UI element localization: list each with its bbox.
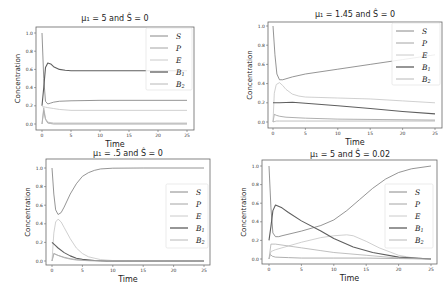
series-p-line <box>42 110 187 124</box>
y-tick-label: 0.6 <box>36 203 43 208</box>
x-tick-label: 25 <box>184 133 190 138</box>
x-tick-label: 10 <box>110 268 116 273</box>
legend-label: E <box>195 212 202 221</box>
x-tick-label: 20 <box>396 267 402 272</box>
subplot-title: μ₁ = 5 and Ŝ = 0.02 <box>310 148 390 159</box>
y-tick-label: 0.8 <box>26 49 33 54</box>
subplot-title: μ₁ = .5 and Ŝ = 0 <box>93 147 163 158</box>
y-tick-label: 1.0 <box>26 31 33 36</box>
subplot-2: μ₁ = 1.45 and Ŝ = 005101520250.00.20.40.… <box>246 8 442 147</box>
legend: SPEB1B2 <box>166 184 208 248</box>
y-tick-label: 0.4 <box>36 221 43 226</box>
series-b2-line <box>273 121 435 122</box>
x-tick-label: 10 <box>97 133 103 138</box>
y-tick-label: 0.0 <box>252 257 259 262</box>
x-axis-label: Time <box>344 138 365 147</box>
y-tick-label: 0.2 <box>252 238 259 243</box>
y-tick-label: 0.2 <box>258 100 265 105</box>
y-tick-label: 0.8 <box>252 182 259 187</box>
y-tick-label: 0.0 <box>26 122 33 127</box>
x-tick-label: 0 <box>272 131 275 136</box>
legend-label: P <box>175 44 182 53</box>
x-tick-label: 20 <box>400 131 406 136</box>
subplot-4: μ₁ = 5 and Ŝ = 0.0205101520250.00.20.40.… <box>240 148 437 283</box>
y-axis-label: Concentration <box>246 50 254 100</box>
x-axis-label: Time <box>104 140 125 149</box>
y-tick-label: 0.4 <box>252 219 259 224</box>
y-tick-label: 1.0 <box>36 166 43 171</box>
legend-label: P <box>414 200 421 209</box>
y-axis-label: Concentration <box>14 54 22 104</box>
x-tick-label: 20 <box>171 268 177 273</box>
x-tick-label: 25 <box>432 131 438 136</box>
y-tick-label: 0.6 <box>26 67 33 72</box>
y-tick-label: 1.0 <box>252 164 259 169</box>
legend-label: E <box>175 56 182 65</box>
y-axis-label: Concentration <box>24 187 32 237</box>
x-tick-label: 5 <box>81 268 84 273</box>
x-tick-label: 0 <box>41 133 44 138</box>
legend-label: P <box>421 39 428 48</box>
series-e-line <box>42 107 187 111</box>
legend: SPEB1B2 <box>392 23 440 85</box>
subplot-title: μ₁ = 1.45 and Ŝ = 0 <box>315 8 395 19</box>
y-tick-label: 0.8 <box>36 184 43 189</box>
y-tick-label: 1.0 <box>258 24 265 29</box>
y-tick-label: 0.4 <box>258 81 265 86</box>
y-axis-label: Concentration <box>240 187 248 237</box>
legend-label: P <box>195 200 202 209</box>
x-tick-label: 5 <box>304 131 307 136</box>
x-tick-label: 25 <box>201 268 207 273</box>
subplot-1: μ₁ = 5 and Ŝ = 005101520250.00.20.40.60.… <box>14 12 194 149</box>
x-tick-label: 5 <box>300 267 303 272</box>
x-tick-label: 10 <box>331 267 337 272</box>
y-tick-label: 0.0 <box>258 120 265 125</box>
x-tick-label: 15 <box>126 133 132 138</box>
legend-label: E <box>414 212 421 221</box>
subplot-3: μ₁ = .5 and Ŝ = 005101520250.00.20.40.60… <box>24 147 210 284</box>
y-tick-label: 0.8 <box>258 43 265 48</box>
y-tick-label: 0.2 <box>36 240 43 245</box>
x-tick-label: 10 <box>335 131 341 136</box>
x-tick-label: 0 <box>268 267 271 272</box>
legend: SPEB1B2 <box>146 28 192 90</box>
legend-label: S <box>415 188 420 197</box>
y-tick-label: 0.0 <box>36 259 43 264</box>
y-tick-label: 0.6 <box>252 201 259 206</box>
x-tick-label: 5 <box>70 133 73 138</box>
legend-label: E <box>421 51 428 60</box>
x-axis-label: Time <box>117 275 138 284</box>
subplot-title: μ₁ = 5 and Ŝ = 0 <box>81 12 148 23</box>
x-tick-label: 20 <box>155 133 161 138</box>
x-tick-label: 15 <box>367 131 373 136</box>
legend-label: S <box>196 188 201 197</box>
x-tick-label: 0 <box>51 268 54 273</box>
legend-label: S <box>422 27 427 36</box>
y-tick-label: 0.4 <box>26 85 33 90</box>
y-tick-label: 0.2 <box>26 103 33 108</box>
legend: SPEB1B2 <box>385 184 433 248</box>
figure-canvas: μ₁ = 5 and Ŝ = 005101520250.00.20.40.60.… <box>0 0 448 294</box>
x-axis-label: Time <box>339 274 360 283</box>
x-tick-label: 15 <box>363 267 369 272</box>
legend-label: S <box>176 32 181 41</box>
series-b1-line <box>273 102 435 114</box>
x-tick-label: 25 <box>428 267 434 272</box>
x-tick-label: 15 <box>140 268 146 273</box>
y-tick-label: 0.6 <box>258 62 265 67</box>
